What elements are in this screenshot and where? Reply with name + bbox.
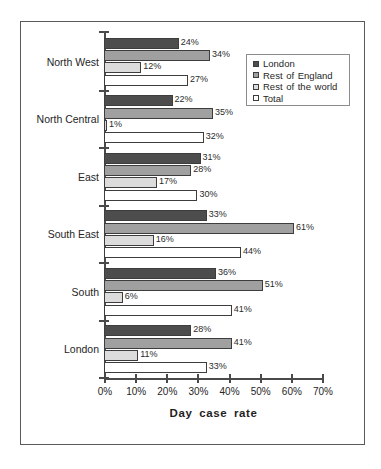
bar[interactable] (104, 235, 154, 246)
legend-swatch-london (253, 61, 259, 67)
bar[interactable] (104, 362, 207, 373)
bar[interactable] (104, 325, 191, 336)
legend-label: Rest of the world (263, 81, 337, 92)
x-axis-tick (260, 374, 262, 383)
x-axis-tick-label: 0% (98, 386, 112, 398)
category-axis-tick (99, 147, 109, 149)
bar-value-label: 6% (123, 290, 138, 302)
bar-group: 28%41%11%33% (104, 321, 322, 379)
legend-item[interactable]: London (253, 58, 349, 70)
bar[interactable] (104, 210, 207, 221)
x-axis-tick (197, 374, 199, 383)
bar[interactable] (104, 292, 123, 303)
legend-swatch-rest-of-england (253, 72, 259, 78)
bar-value-label: 32% (204, 130, 224, 142)
x-axis-tick-label: 50% (251, 386, 271, 398)
bar-group: 36%51%6%41% (104, 263, 322, 321)
bar[interactable] (104, 177, 157, 188)
bar-value-label: 34% (210, 48, 230, 60)
category-label: South (72, 286, 99, 298)
category-axis-tick (99, 90, 109, 92)
bar-value-label: 22% (173, 93, 193, 105)
bar[interactable] (104, 268, 216, 279)
bar[interactable] (104, 38, 179, 49)
x-axis-tick (322, 374, 324, 383)
category-axis-tick (99, 262, 109, 264)
bar-value-label: 1% (107, 118, 122, 130)
x-axis-tick (291, 374, 293, 383)
bar[interactable] (104, 75, 188, 86)
bar-value-label: 36% (216, 266, 236, 278)
x-axis-tick-label: 40% (220, 386, 240, 398)
category-axis-tick (99, 31, 109, 33)
bar-value-label: 28% (191, 163, 211, 175)
x-axis-tick (104, 374, 106, 383)
category-axis-tick (99, 205, 109, 207)
category-axis-tick (99, 320, 109, 322)
bar[interactable] (104, 338, 232, 349)
category-label: London (64, 343, 99, 355)
bar[interactable] (104, 132, 204, 143)
chart-figure: 24%34%12%27%22%35%1%32%31%28%17%30%33%61… (0, 0, 381, 469)
bar-group: 31%28%17%30% (104, 148, 322, 206)
bar-value-label: 61% (294, 221, 314, 233)
x-axis-tick-label: 60% (282, 386, 302, 398)
bar-value-label: 41% (232, 303, 252, 315)
x-axis-tick (229, 374, 231, 383)
bar[interactable] (104, 350, 138, 361)
bar-value-label: 33% (207, 360, 227, 372)
bar[interactable] (104, 305, 232, 316)
bar[interactable] (104, 190, 197, 201)
bar-value-label: 31% (201, 151, 221, 163)
x-axis-title: Day case rate (104, 407, 323, 419)
x-axis-tick-label: 10% (126, 386, 146, 398)
chart-legend: London Rest of England Rest of the world… (246, 54, 350, 106)
category-label: South East (48, 228, 99, 240)
legend-item[interactable]: Rest of England (253, 70, 349, 82)
bar[interactable] (104, 62, 141, 73)
legend-swatch-rest-of-the-world (253, 84, 259, 90)
category-label: North West (47, 56, 99, 68)
x-axis-tick (135, 374, 137, 383)
legend-item[interactable]: Total (253, 93, 349, 105)
legend-label: Total (263, 93, 283, 104)
bar[interactable] (104, 223, 294, 234)
bar-value-label: 28% (191, 323, 211, 335)
legend-label: London (263, 58, 295, 69)
bar-value-label: 33% (207, 208, 227, 220)
x-axis-tick (166, 374, 168, 383)
bar-value-label: 11% (138, 348, 157, 360)
bar-value-label: 17% (157, 175, 177, 187)
category-label: North Central (37, 113, 99, 125)
bar-value-label: 41% (232, 336, 252, 348)
bar-value-label: 35% (213, 106, 233, 118)
legend-swatch-total (253, 95, 259, 101)
bar-value-label: 24% (179, 36, 199, 48)
bar[interactable] (104, 165, 191, 176)
bar-value-label: 16% (154, 233, 174, 245)
bar[interactable] (104, 153, 201, 164)
bar[interactable] (104, 247, 241, 258)
category-label: East (78, 171, 99, 183)
legend-label: Rest of England (263, 70, 333, 81)
bar[interactable] (104, 95, 173, 106)
x-axis-tick-label: 20% (157, 386, 177, 398)
bar-group: 33%61%16%44% (104, 206, 322, 264)
bar-value-label: 27% (188, 73, 208, 85)
bar-value-label: 12% (141, 60, 161, 72)
bar-value-label: 30% (197, 188, 217, 200)
x-axis-tick-label: 70% (313, 386, 333, 398)
x-axis-tick-label: 30% (188, 386, 208, 398)
legend-item[interactable]: Rest of the world (253, 81, 349, 93)
bar-value-label: 44% (241, 245, 261, 257)
bar-value-label: 51% (263, 278, 283, 290)
